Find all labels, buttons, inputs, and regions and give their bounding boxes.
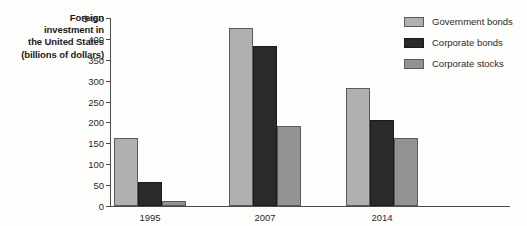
y-axis-tick-mark [106,122,110,123]
legend: Government bondsCorporate bondsCorporate… [404,11,527,74]
legend-swatch [404,38,424,48]
bar [277,126,301,206]
bar [370,120,394,206]
legend-swatch [404,59,424,69]
bar [346,88,370,206]
legend-item: Corporate stocks [404,53,527,74]
x-axis-group-label: 2007 [215,212,315,223]
bar [394,138,418,206]
y-axis-tick-label: $450 [83,13,104,24]
y-axis-tick-label: 100 [88,159,104,170]
y-axis-tick-label: 300 [88,75,104,86]
legend-item: Government bonds [404,11,527,32]
bar-chart: Foreigninvestment inthe United States(bi… [0,0,527,226]
y-axis-tick-mark [106,164,110,165]
bar-group [114,18,186,206]
y-axis-tick-label: 400 [88,33,104,44]
y-axis-tick-label: 0 [99,201,104,212]
y-axis-tick-mark [106,60,110,61]
y-axis-tick-label: 50 [93,180,104,191]
legend-label: Corporate stocks [432,58,504,69]
y-axis-tick-mark [106,39,110,40]
y-axis-tick-mark [106,102,110,103]
x-axis-line [110,206,510,207]
y-axis-tick-label: 200 [88,117,104,128]
legend-label: Government bonds [432,16,513,27]
bar [114,138,138,206]
bar-group [229,18,301,206]
y-axis-tick-label: 150 [88,138,104,149]
bar [253,46,277,206]
y-axis-tick-mark [106,81,110,82]
legend-swatch [404,17,424,27]
x-axis-group-label: 1995 [100,212,200,223]
y-axis-tick-label: 350 [88,54,104,65]
y-axis-line [110,18,111,207]
y-axis-tick-mark [106,206,110,207]
bar [138,182,162,206]
y-axis-tick-mark [106,143,110,144]
y-axis-tick-mark [106,18,110,19]
y-axis-tick-mark [106,185,110,186]
x-axis-group-label: 2014 [332,212,432,223]
bar [162,201,186,206]
y-axis-tick-label: 250 [88,96,104,107]
bar [229,28,253,206]
legend-label: Corporate bonds [432,37,503,48]
legend-item: Corporate bonds [404,32,527,53]
